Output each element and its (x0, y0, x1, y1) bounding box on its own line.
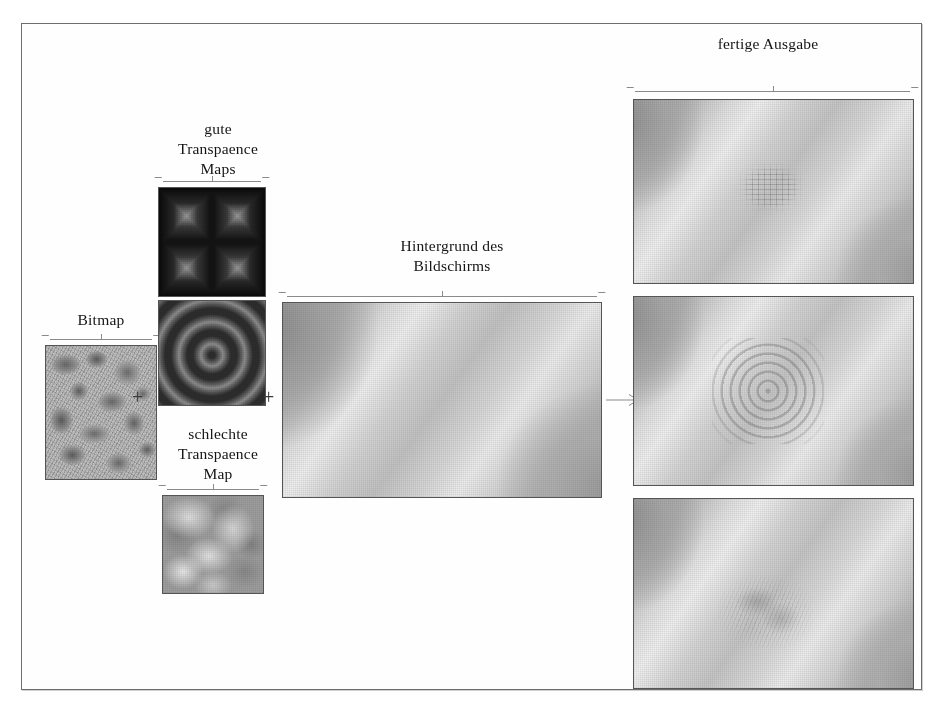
bitmap-brace (45, 334, 157, 345)
cloudy-transparence-map-image (162, 495, 264, 594)
concentric-ring-transparence-map-image (158, 300, 266, 406)
bad-transparence-map-caption: schlechte Transpaence Map (156, 424, 280, 484)
output-brace (630, 86, 915, 97)
result-cloud-artefact-image (633, 498, 914, 689)
result-square-artefact-image (633, 99, 914, 284)
plus-operator-bitmap-maps: + (132, 387, 143, 407)
backdrop-brace (282, 291, 602, 302)
plus-operator-maps-backdrop: + (263, 387, 274, 407)
result-ring-artefact-image (633, 296, 914, 486)
good-transparence-maps-caption: gute Transpaence Maps (156, 119, 280, 179)
backdrop-caption: Hintergrund des Bildschirms (292, 236, 612, 276)
output-caption: fertige Ausgabe (623, 34, 913, 54)
screen-backdrop-image (282, 302, 602, 498)
square-ring-transparence-map-image (158, 187, 266, 297)
figure-frame: Bitmap + gute Transpaence Maps schlechte… (21, 23, 922, 690)
bad-transparence-map-brace (162, 484, 264, 495)
bitmap-caption: Bitmap (36, 310, 166, 330)
good-transparence-maps-brace (158, 176, 266, 187)
bitmap-texture-image (45, 345, 157, 480)
